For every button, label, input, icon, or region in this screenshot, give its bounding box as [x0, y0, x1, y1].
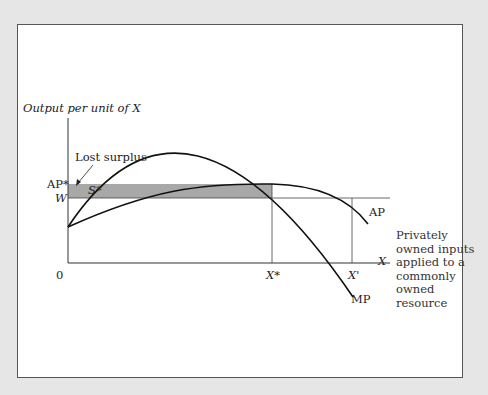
mp-curve-label: MP: [351, 292, 371, 306]
x-prime-tick: X': [348, 268, 359, 282]
mp-curve: [68, 153, 353, 297]
ap-star-tick: AP*: [47, 177, 69, 191]
s-star-label: S*: [88, 183, 102, 197]
y-axis-label: Output per unit of X: [23, 101, 141, 115]
x-axis-label: X: [378, 254, 386, 268]
note-text: Privately owned inputs applied to a comm…: [396, 229, 476, 310]
ap-curve-label: AP: [369, 205, 385, 219]
lost-surplus-label: Lost surplus: [75, 150, 147, 164]
w-tick: W: [55, 191, 67, 205]
x-star-tick: X*: [266, 268, 280, 282]
origin-label: 0: [56, 268, 63, 282]
chart-plot: [0, 0, 488, 395]
